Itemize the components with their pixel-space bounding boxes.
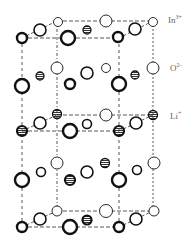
atom-medium: [130, 117, 142, 129]
atom-bold: [63, 124, 77, 138]
atom-medium: [130, 213, 142, 225]
atom-bold: [63, 220, 77, 234]
atom-striped: [149, 111, 158, 120]
atom-thin: [100, 109, 112, 121]
atom-medium: [34, 24, 46, 36]
atom-medium: [83, 120, 92, 129]
atom-thin: [102, 64, 111, 73]
legend-label-in: In3+: [168, 14, 182, 25]
atom-thin: [100, 205, 113, 218]
atom-striped: [36, 72, 44, 80]
atom-thin: [148, 157, 160, 169]
atom-bold: [15, 173, 29, 187]
atom-striped: [83, 26, 91, 34]
crystal-structure-diagram: [0, 0, 194, 250]
legend-label-li: Li+: [170, 110, 181, 121]
atom-thin: [147, 62, 159, 74]
atom-striped-dark: [17, 126, 27, 136]
atom-bold: [17, 33, 27, 43]
atom-bold: [65, 79, 75, 89]
atom-striped: [101, 159, 110, 168]
atoms: [15, 15, 160, 234]
atom-thin: [54, 18, 63, 27]
atom-medium: [81, 166, 93, 178]
ion-charge: 2-: [177, 62, 182, 68]
legend-label-o: O2-: [170, 62, 182, 73]
atom-thin: [149, 18, 158, 27]
ion-symbol: Li: [170, 111, 178, 121]
atom-medium: [37, 168, 46, 177]
ion-charge: 3+: [176, 14, 182, 20]
atom-striped: [131, 71, 139, 79]
ion-symbol: In: [168, 15, 176, 25]
atom-striped-dark: [83, 216, 92, 225]
ion-charge: +: [178, 110, 181, 116]
atom-medium: [81, 67, 93, 79]
atom-bold: [113, 32, 123, 42]
atom-medium: [133, 166, 142, 175]
atom-bold: [17, 222, 27, 232]
atom-striped: [53, 110, 62, 119]
atom-striped-dark: [65, 175, 75, 185]
atom-bold: [15, 79, 29, 93]
atom-medium: [34, 213, 46, 225]
atom-thin: [100, 15, 112, 27]
atom-medium: [34, 117, 46, 129]
atom-thin: [51, 157, 63, 169]
atom-thin: [52, 206, 62, 216]
atom-bold: [114, 222, 124, 232]
atom-striped-dark: [114, 126, 124, 136]
atom-bold: [61, 31, 75, 45]
atom-thin: [51, 62, 63, 74]
atom-thin: [149, 206, 159, 216]
atom-bold: [112, 173, 126, 187]
atom-bold: [112, 77, 126, 91]
atom-medium: [129, 23, 141, 35]
